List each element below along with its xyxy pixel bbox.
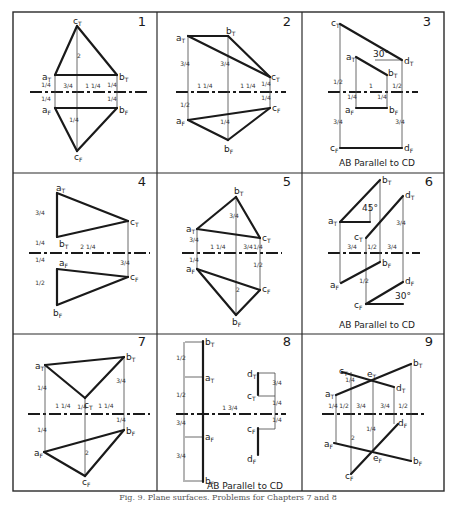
dimension-label: 1 1/4 [240, 82, 256, 89]
point-label: aF [59, 258, 69, 269]
dimension-label: 3/4 [220, 60, 230, 67]
panel-number: 1 [138, 14, 146, 29]
panel-9: 9bTcTeTdTaTdFaFeFbFcF1/23/43/41/21/41/41… [322, 334, 433, 482]
dimension-label: 3/4 [243, 243, 253, 250]
point-label: aF [324, 439, 334, 450]
dimension-label: 3/4 [116, 377, 126, 384]
dimension-label: 1/2 [253, 261, 263, 268]
plane-edge [340, 180, 380, 222]
panel-number: 8 [283, 334, 291, 349]
dimension-label: 1/4 [189, 256, 199, 263]
outer-border [13, 12, 444, 491]
point-label: cT [271, 72, 280, 83]
dimension-label: 2 [236, 286, 240, 293]
dimension-label: 2 [351, 434, 355, 441]
dimension-label: 1/4 [107, 81, 117, 88]
point-label: bT [382, 175, 392, 186]
point-label: aT [328, 216, 338, 227]
point-label: aF [186, 264, 196, 275]
dimension-label: 1/2 [35, 279, 45, 286]
dimension-label: 1 1/4 [85, 82, 101, 89]
dimension-label: 2 [77, 52, 81, 59]
dimension-label: 1/4 [272, 416, 282, 423]
plane-edge [77, 108, 117, 151]
annotation-note: AB Parallel to CD [339, 158, 415, 168]
dimension-label: 1/4 [37, 426, 47, 433]
point-label: aF [42, 105, 52, 116]
dimension-label: 1/4 [366, 425, 376, 432]
plane-edge [188, 36, 270, 77]
plane-edge [236, 197, 260, 238]
point-label: bF [232, 317, 242, 328]
point-label: cT [247, 391, 256, 402]
dimension-label: 1/4 [347, 93, 357, 100]
point-label: aF [330, 280, 340, 291]
point-label: bT [234, 186, 244, 197]
point-label: dT [405, 190, 415, 201]
dimension-label: 1/2 [392, 82, 402, 89]
plane-edge [228, 36, 270, 77]
point-label: bT [226, 26, 236, 37]
dimension-label: 1/4 [35, 239, 45, 246]
point-label: cF [354, 300, 363, 311]
dimension-label: 2 1/4 [80, 243, 96, 250]
point-label: aT [346, 52, 356, 63]
panel-4: 4aTcTbTaFcFbF2 1/43/41/41/41/23/4 [29, 174, 150, 319]
point-label: cF [330, 143, 339, 154]
figure-caption: Fig. 9. Plane surfaces. Problems for Cha… [0, 493, 456, 502]
panel-number: 5 [283, 174, 291, 189]
dimension-label: 1/2 [180, 101, 190, 108]
panel-2: 2aTbTcTcFaFbF1 1/41 1/43/43/41/41/41/21/… [176, 14, 291, 155]
point-label: bF [413, 456, 423, 467]
dimension-label: 3/4 [189, 236, 199, 243]
point-label: bF [126, 426, 136, 437]
dimension-label: 1 3/4 [222, 404, 238, 411]
dimension-label: 3/4 [333, 118, 343, 125]
panel-8: 8bTaTdTcTcFaFdFbF1 3/41/21/23/43/43/41/4… [176, 334, 291, 491]
panel-number: 4 [138, 174, 146, 189]
point-label: aT [35, 361, 45, 372]
dimension-label: 3/4 [347, 243, 357, 250]
panel-3: 3cTdTaTbTaFbFcFdF1/211/21/41/43/43/430°A… [328, 14, 431, 168]
dimension-label: 3/4 [396, 219, 406, 226]
dimension-label: 1/4 [116, 416, 126, 423]
point-label: bF [53, 308, 63, 319]
dimension-label: 1 1/4 [210, 243, 226, 250]
dimension-label: 3/4 [63, 82, 73, 89]
panel-1: 1cTaTbTaFbFcF3/41 1/421/41/41/41/41/4 [30, 14, 150, 163]
plane-edge [44, 452, 85, 476]
dimension-label: 1/2 [367, 243, 377, 250]
point-label: aF [176, 116, 186, 127]
point-label: cT [73, 16, 82, 27]
dimension-label: 1/2 [333, 78, 343, 85]
plane-edge [57, 193, 128, 221]
point-label: bT [59, 239, 69, 250]
plane-edge [85, 430, 124, 476]
point-label: cF [130, 272, 139, 283]
plane-edge [57, 221, 128, 237]
annotation-note: 45° [362, 203, 378, 213]
dimension-label: 3/4 [120, 259, 130, 266]
dimension-label: 1/4 [107, 95, 117, 102]
dimension-label: 1/4 [41, 81, 51, 88]
panel-number: 9 [425, 334, 433, 349]
dimension-label: 1/4 [272, 399, 282, 406]
dimension-label: 1/2 [176, 391, 186, 398]
point-label: bF [389, 105, 399, 116]
dimension-label: 1/4 [35, 256, 45, 263]
dimension-label: 3/4 [380, 402, 390, 409]
dimension-label: 1/4 [345, 376, 355, 383]
dimension-label: 3/4 [387, 243, 397, 250]
point-label: eT [367, 369, 377, 380]
dimension-label: 1/4 [253, 243, 263, 250]
point-label: cF [74, 152, 83, 163]
point-label: aT [56, 183, 66, 194]
dimension-label: 3/4 [35, 209, 45, 216]
panel-5: 5bTaTcTaFcFbF1 1/43/43/43/41/41/41/22 [182, 174, 291, 328]
plane-edge [197, 229, 260, 238]
point-label: aT [176, 33, 186, 44]
plane-edge [44, 430, 124, 452]
dimension-label: 3/4 [176, 452, 186, 459]
plane-edge [57, 277, 128, 305]
annotation-note: AB Parallel to CD [339, 320, 415, 330]
